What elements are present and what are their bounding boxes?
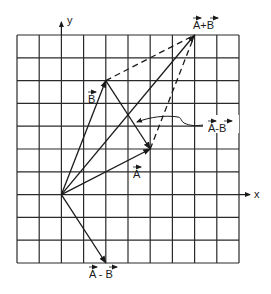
label-b: B	[88, 92, 96, 105]
svg-text:B: B	[88, 93, 95, 105]
label-a-minus-b-bottom: A - B	[89, 267, 117, 280]
leader-arrow-icon	[137, 116, 203, 125]
label-a-plus-b: A+B	[193, 18, 218, 31]
vector-diagram: y x B A	[0, 0, 271, 294]
svg-text:A+B: A+B	[193, 19, 214, 31]
svg-text:A-B: A-B	[208, 122, 226, 134]
y-axis-label: y	[67, 14, 73, 26]
vector-diagram-canvas: y x B A	[0, 0, 271, 294]
label-a: A	[133, 167, 141, 180]
svg-text:A - B: A - B	[89, 268, 113, 280]
svg-text:A: A	[133, 168, 141, 180]
x-axis-label: x	[254, 188, 260, 200]
